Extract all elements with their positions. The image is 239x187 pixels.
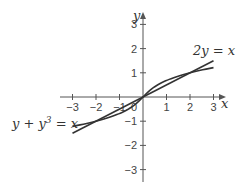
- x-tick-label: 2: [187, 101, 193, 113]
- legend-label-y-plus-y3-eq-x: y + y3 = x: [11, 115, 79, 131]
- y-axis-label: y: [132, 8, 141, 23]
- x-tick-label: −3: [66, 101, 79, 113]
- x-axis-label: x: [221, 96, 229, 111]
- y-tick-label: −2: [124, 139, 137, 151]
- x-tick-label: −2: [90, 101, 103, 113]
- y-tick-label: −1: [124, 115, 137, 127]
- legend-label-2y-eq-x: 2y = x: [192, 43, 236, 58]
- x-tick-label: 1: [163, 101, 169, 113]
- chart: −3−2−10123321−1−2−3 x y 2y = x y + y3 = …: [0, 0, 239, 187]
- y-tick-label: −3: [124, 164, 137, 176]
- y-axis-arrow-icon: [140, 12, 146, 19]
- x-tick-label: 3: [210, 101, 216, 113]
- y-tick-label: 2: [131, 43, 137, 55]
- y-tick-label: 1: [131, 67, 137, 79]
